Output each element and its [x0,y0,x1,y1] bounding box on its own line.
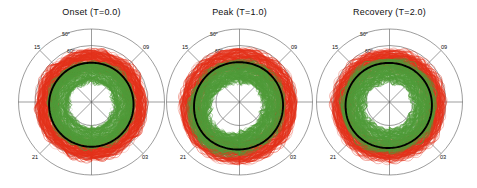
polar-plot-onset: 50° 60° 70° 15 09 21 03 [12,16,171,188]
polar-plot-peak: 50° 60° 70° 15 09 21 03 [160,16,319,188]
polar-plot-figure: Onset (T=0.0) 50° 60° 70° 15 09 21 [0,0,477,188]
mlt-label-15: 15 [332,44,338,50]
panel-onset: Onset (T=0.0) 50° 60° 70° 15 09 21 [12,0,171,188]
mlt-label-03: 03 [142,154,148,160]
mlt-label-21: 21 [330,154,336,160]
mlt-label-21: 21 [32,154,38,160]
mlt-label-03: 03 [290,154,296,160]
panel-recovery: Recovery (T=2.0) 50° 60° 70° 15 09 [310,0,469,188]
lat-label-50: 50° [210,31,218,37]
lat-label-50: 50° [360,31,368,37]
mlt-label-09: 09 [143,44,149,50]
mlt-label-15: 15 [182,44,188,50]
mlt-label-09: 09 [291,44,297,50]
panel-peak: Peak (T=1.0) 50° 60° 70° 15 09 21 [160,0,319,188]
lat-label-50: 50° [62,31,70,37]
mlt-label-09: 09 [441,44,447,50]
mlt-label-15: 15 [34,44,40,50]
mlt-label-21: 21 [180,154,186,160]
polar-plot-recovery: 50° 60° 70° 15 09 21 03 [310,16,469,188]
mlt-label-03: 03 [440,154,446,160]
